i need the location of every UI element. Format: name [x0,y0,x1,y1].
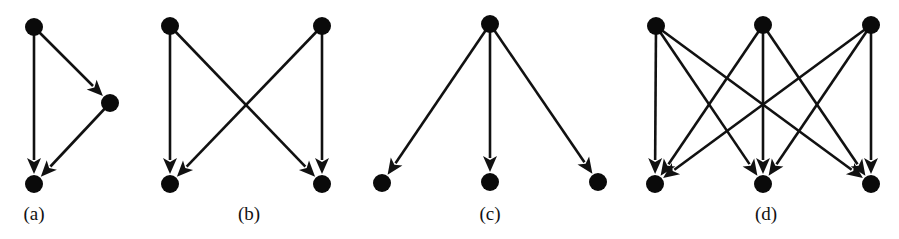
arrowhead-icon [315,158,329,174]
edge-d3-d5 [776,25,871,164]
node-d1 [647,17,665,35]
edge-b1-b4 [170,26,305,167]
arrowhead-icon [578,157,593,174]
node-c3 [481,173,499,191]
graph-label-b: (b) [238,204,260,223]
arrowhead-icon [743,159,758,176]
arrowhead-icon [163,158,177,174]
arrowhead-icon [864,158,878,174]
edge-d1-d5 [656,26,750,164]
node-d6 [862,175,880,193]
node-d3 [862,16,880,34]
node-d2 [754,16,772,34]
arrowhead-icon [27,158,41,174]
arrowhead-icon [756,158,770,174]
graph-b [161,17,331,193]
arrowhead-icon [388,158,403,175]
edge-c1-c2 [395,24,490,163]
edge-c1-c4 [490,24,584,162]
node-b4 [313,175,331,193]
node-a1 [25,18,43,36]
node-c4 [589,173,607,191]
graph-d [646,16,880,193]
node-b2 [313,17,331,35]
node-c1 [481,15,499,33]
graph-label-c: (c) [479,204,500,223]
edge-b2-b3 [187,26,322,167]
node-c2 [373,174,391,192]
graph-a [25,18,119,193]
edge-d1-d4 [655,26,656,160]
graph-label-a: (a) [23,204,44,223]
graph-c [373,15,607,192]
node-a3 [25,175,43,193]
arrowhead-icon [483,156,497,172]
node-b1 [161,17,179,35]
node-d5 [754,175,772,193]
graph-label-d: (d) [755,204,777,223]
node-b3 [161,175,179,193]
edge-a2-a3 [50,103,110,166]
edge-a1-a2 [34,27,93,86]
node-d4 [646,175,664,193]
node-a2 [101,94,119,112]
arrowhead-icon [769,159,784,176]
arrowhead-icon [648,158,662,174]
